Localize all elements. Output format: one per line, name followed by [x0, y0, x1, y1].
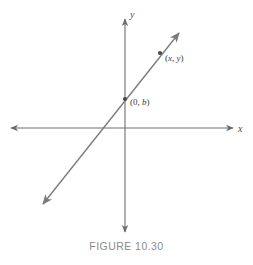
y-axis-label: y — [129, 9, 135, 20]
figure-caption: FIGURE 10.30 — [0, 240, 253, 252]
generic-point-label: (x, y) — [165, 53, 184, 63]
y-intercept-label-prefix: (0, — [130, 97, 142, 107]
plotted-line — [43, 33, 179, 204]
generic-point-marker — [158, 51, 162, 55]
figure-container: x y (0, b) (x, y) FIGURE 10.30 — [0, 0, 253, 265]
y-intercept-label: (0, b) — [130, 97, 150, 107]
generic-point-label-suffix: ) — [181, 53, 184, 63]
x-axis-label: x — [237, 123, 243, 134]
y-intercept-label-suffix: ) — [147, 97, 150, 107]
coordinate-graph: x y (0, b) (x, y) — [0, 0, 253, 265]
y-intercept-point-marker — [123, 97, 127, 101]
